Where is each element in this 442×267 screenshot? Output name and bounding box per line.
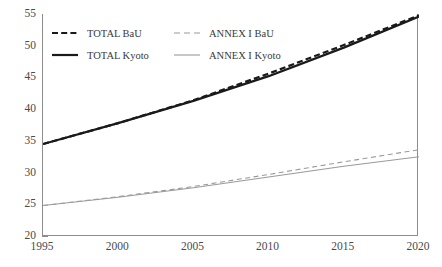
legend-entry-total-kyoto: TOTAL Kyoto [52,50,174,61]
legend-swatch-annex-i-kyoto-solid-line-icon [174,50,200,60]
series-line-annex-i-kyoto [43,157,419,206]
y-axis-tick-label: 35 [0,135,36,147]
legend-swatch-annex-i-bau-dashed-line-icon [174,28,200,38]
legend-entry-total-bau: TOTAL BaU [52,28,174,39]
legend-label-total-bau: TOTAL BaU [87,28,142,39]
legend-label-annex-i-bau: ANNEX I BaU [209,28,274,39]
y-axis-tick-label: 30 [0,167,36,179]
y-axis-tick-label: 40 [0,103,36,115]
y-axis-tick-mark [42,236,48,237]
x-axis-tick-label: 2015 [313,241,373,253]
y-axis-tick-label: 50 [0,40,36,52]
legend-row: TOTAL BaU ANNEX I BaU [52,22,322,44]
x-axis-tick-label: 2020 [388,241,442,253]
y-axis-tick-label: 45 [0,71,36,83]
chart-legend: TOTAL BaU ANNEX I BaU TOTAL Kyoto [52,22,322,66]
chart-figure: 2025303540455055 19952000200520102015202… [0,0,442,267]
legend-swatch-total-bau-dashed-line-icon [52,28,78,38]
legend-swatch-total-kyoto-solid-line-icon [52,50,78,60]
x-axis-tick-label: 2010 [238,241,298,253]
x-axis-tick-label: 2005 [162,241,222,253]
x-axis-tick-label: 2000 [87,241,147,253]
legend-entry-annex-i-kyoto: ANNEX I Kyoto [174,50,314,61]
x-axis-tick-label: 1995 [12,241,72,253]
y-axis-tick-label: 25 [0,198,36,210]
y-axis-tick-label: 55 [0,8,36,20]
legend-entry-annex-i-bau: ANNEX I BaU [174,28,314,39]
legend-label-annex-i-kyoto: ANNEX I Kyoto [209,50,281,61]
legend-row: TOTAL Kyoto ANNEX I Kyoto [52,44,322,66]
legend-label-total-kyoto: TOTAL Kyoto [87,50,149,61]
series-line-annex-i-bau [43,150,419,206]
